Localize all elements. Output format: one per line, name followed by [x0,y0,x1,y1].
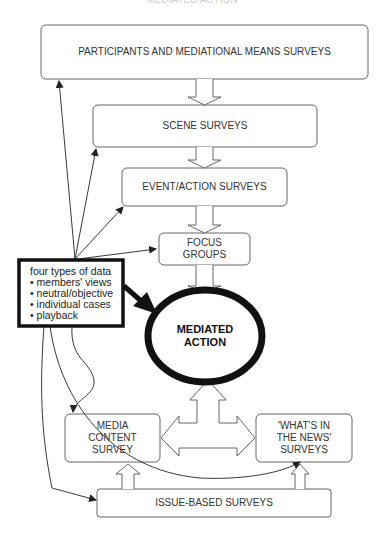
event-label: EVENT/ACTION SURVEYS [122,168,287,206]
scene-label: SCENE SURVEYS [93,105,317,147]
news-line1: 'WHAT'S IN [278,420,330,432]
center-label: MEDIATED ACTION [150,310,260,362]
news-label: 'WHAT'S IN THE NEWS' SURVEYS [256,414,352,462]
center-line2: ACTION [184,336,226,349]
media-line3: SURVEY [92,444,133,456]
participants-label: PARTICIPANTS AND MEDIATIONAL MEANS SURVE… [41,25,368,79]
data-types-list: members' views neutral/objective individ… [30,277,121,321]
arrow-issue-media [116,464,140,489]
focus-line2: GROUPS [183,249,226,261]
focus-line1: FOCUS [187,237,222,249]
data-types-box: four types of data members' views neutra… [21,262,121,324]
news-line3: SURVEYS [280,444,328,456]
news-line2: THE NEWS' [277,432,332,444]
center-line1: MEDIATED [177,323,234,336]
cross-arrow [161,380,255,456]
arrow-participants-scene [188,79,221,105]
arrow-scene-event [188,147,221,168]
data-type-item: playback [30,310,121,321]
media-line2: CONTENT [88,432,136,444]
focus-label: FOCUS GROUPS [159,233,250,265]
arrow-issue-news [291,464,309,489]
thick-arrow-data-to-center [124,286,140,300]
issue-label: ISSUE-BASED SURVEYS [97,489,331,517]
arrow-event-focus [188,206,221,233]
media-label: MEDIA CONTENT SURVEY [65,414,160,462]
media-line1: MEDIA [97,420,129,432]
